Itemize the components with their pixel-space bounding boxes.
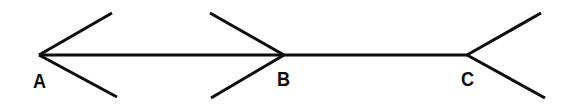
vertex-label-a: A [33, 70, 46, 91]
muller-lyer-figure: A B C [0, 0, 575, 104]
fin-a-lower [39, 55, 117, 97]
fin-a-upper [39, 13, 112, 55]
fin-b-upper [210, 13, 284, 55]
vertex-label-c: C [461, 68, 474, 89]
vertex-label-b: B [277, 68, 290, 89]
fin-c-upper [467, 13, 541, 55]
fin-c-lower [467, 55, 545, 98]
fin-b-lower [211, 55, 284, 98]
